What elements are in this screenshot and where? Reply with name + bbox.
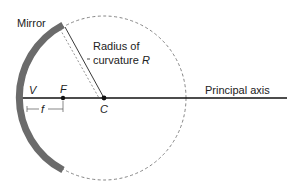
mirror-label: Mirror — [17, 17, 46, 29]
radius-label-text: curvature — [93, 54, 139, 66]
radius-label-line2: curvature R — [93, 54, 150, 66]
center-point-dot — [102, 96, 107, 101]
focal-length-label: f — [41, 103, 44, 115]
focal-point-dot — [61, 96, 65, 100]
principal-axis-label: Principal axis — [205, 84, 270, 96]
vertex-label: V — [29, 84, 36, 96]
focal-point-label: F — [60, 83, 67, 95]
radius-symbol: R — [142, 54, 150, 66]
center-label: C — [100, 103, 108, 115]
radius-label-line1: Radius of — [93, 40, 139, 52]
